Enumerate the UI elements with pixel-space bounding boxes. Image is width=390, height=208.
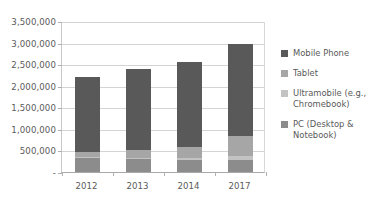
legend-label: Mobile Phone (293, 48, 349, 59)
bar-segment[interactable] (126, 158, 151, 159)
bar-segment[interactable] (126, 159, 151, 172)
stacked-bar-chart: -500,0001,000,0001,500,0002,000,0002,500… (0, 0, 390, 208)
y-tick-label: 500,000 (20, 147, 56, 156)
bar-group-2013[interactable] (126, 21, 151, 172)
bar-segment[interactable] (177, 147, 202, 158)
legend-item[interactable]: PC (Desktop & Notebook) (281, 119, 389, 141)
legend-label: Ultramobile (e.g., Chromebook) (293, 88, 366, 110)
x-axis: 2012201320142017 (61, 176, 265, 196)
legend-label: Tablet (293, 68, 318, 79)
legend-item[interactable]: Ultramobile (e.g., Chromebook) (281, 88, 389, 110)
bar-group-2012[interactable] (75, 21, 100, 172)
y-tick-label: 2,500,000 (11, 61, 56, 70)
bar-segment[interactable] (177, 158, 202, 160)
legend-swatch-pc (281, 121, 288, 128)
bar-segment[interactable] (228, 160, 253, 172)
x-tick-label: 2013 (127, 182, 149, 191)
bar-segment[interactable] (75, 152, 100, 157)
y-tick-label: 3,500,000 (11, 18, 56, 27)
y-tick-label: - (53, 169, 56, 178)
bar-segment[interactable] (228, 44, 253, 136)
bar-group-2014[interactable] (177, 21, 202, 172)
bars-layer (62, 22, 264, 172)
x-tick-label: 2017 (229, 182, 251, 191)
bar-segment[interactable] (228, 136, 253, 156)
plot-area (61, 22, 265, 173)
bar-segment[interactable] (126, 150, 151, 158)
x-tick-mark (266, 172, 267, 176)
plot-wrapper: -500,0001,000,0001,500,0002,000,0002,500… (0, 0, 272, 208)
bar-segment[interactable] (228, 156, 253, 160)
x-tick-label: 2014 (178, 182, 200, 191)
bar-segment[interactable] (75, 77, 100, 152)
legend-swatch-tablet (281, 70, 288, 77)
y-tick-label: 1,000,000 (11, 126, 56, 135)
legend-item[interactable]: Mobile Phone (281, 48, 389, 59)
legend-swatch-ultramobile (281, 90, 288, 97)
bar-segment[interactable] (75, 157, 100, 172)
y-tick-label: 2,000,000 (11, 82, 56, 91)
x-tick-label: 2012 (76, 182, 98, 191)
bar-segment[interactable] (126, 69, 151, 150)
bar-segment[interactable] (177, 160, 202, 172)
legend-item[interactable]: Tablet (281, 68, 389, 79)
bar-group-2017[interactable] (228, 21, 253, 172)
legend-swatch-mobile-phone (281, 50, 288, 57)
chart-legend: Mobile PhoneTabletUltramobile (e.g., Chr… (281, 48, 389, 150)
y-tick-label: 3,000,000 (11, 39, 56, 48)
y-axis: -500,0001,000,0001,500,0002,000,0002,500… (0, 0, 60, 208)
y-tick-label: 1,500,000 (11, 104, 56, 113)
bar-segment[interactable] (177, 62, 202, 148)
legend-label: PC (Desktop & Notebook) (293, 119, 354, 141)
